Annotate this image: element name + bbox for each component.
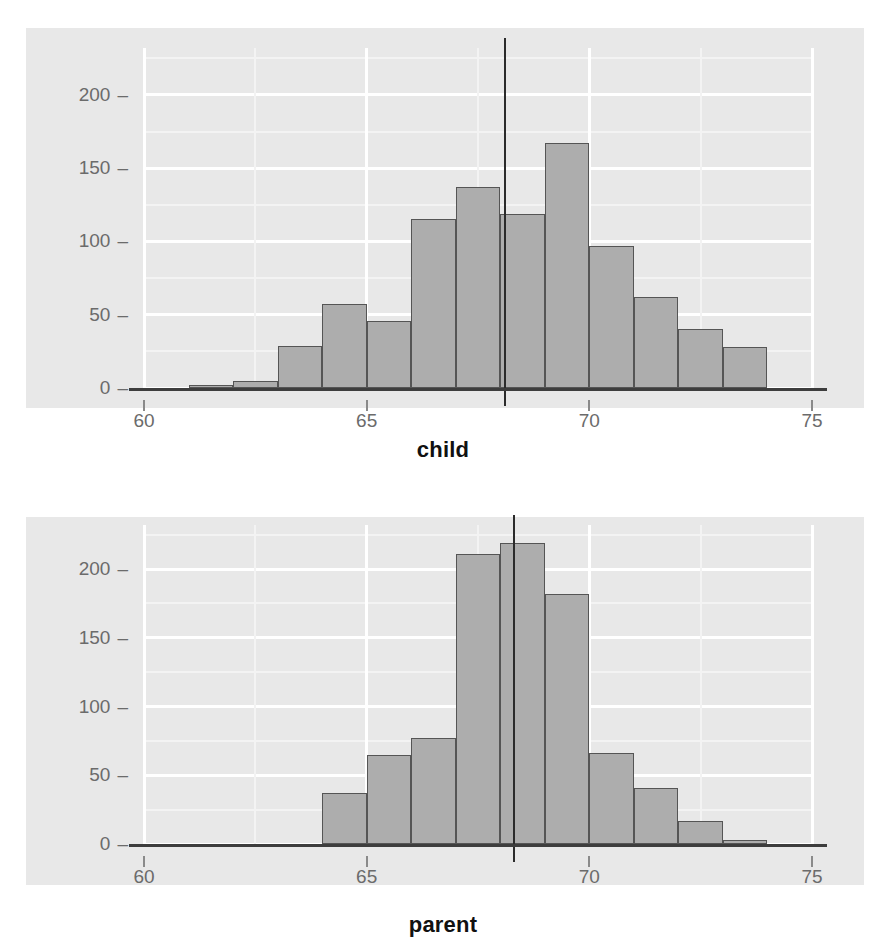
histogram-bar: [367, 755, 412, 844]
mean-reference-line: [513, 515, 515, 862]
gridline-minor-vertical: [700, 525, 702, 844]
histogram-bar: [678, 821, 723, 844]
histogram-bar: [589, 753, 634, 844]
y-axis-tick-mark: –: [117, 833, 128, 855]
histogram-bar: [545, 143, 590, 388]
y-axis-tick-mark: –: [117, 627, 128, 649]
y-axis-tick-label: 50–: [0, 764, 128, 786]
x-axis-line: [129, 844, 827, 847]
y-axis-tick-label: 0–: [0, 377, 128, 399]
histogram-bar: [500, 214, 545, 388]
y-axis-tick-label: 150–: [0, 627, 128, 649]
y-axis-tick-value: 200: [79, 84, 111, 105]
y-axis-tick-label: 100–: [0, 696, 128, 718]
gridline-minor-horizontal: [144, 57, 812, 59]
mean-reference-line: [504, 38, 506, 406]
histogram-bar: [589, 246, 634, 388]
gridline-major-horizontal: [144, 167, 812, 170]
y-axis-tick-mark: –: [117, 764, 128, 786]
y-axis-tick-label: 200–: [0, 558, 128, 580]
x-axis-line: [129, 388, 827, 391]
y-axis-tick-value: 100: [79, 230, 111, 251]
histogram-bar: [322, 304, 367, 388]
y-axis-tick-mark: –: [117, 377, 128, 399]
figure-canvas: 0–50–100–150–200– 60657075 child 0–50–10…: [0, 0, 886, 946]
y-axis-tick-value: 150: [79, 157, 111, 178]
histogram-bar: [456, 187, 501, 388]
histogram-bar: [411, 738, 456, 844]
plot-area-child: [144, 48, 812, 388]
histogram-bar: [678, 329, 723, 388]
x-axis-tick-label: 65: [356, 866, 377, 888]
x-axis-tick-label: 75: [801, 410, 822, 432]
y-axis-tick-label: 100–: [0, 230, 128, 252]
x-axis-tick-label: 60: [133, 866, 154, 888]
y-axis-tick-value: 0: [100, 377, 111, 398]
y-axis-tick-label: 0–: [0, 833, 128, 855]
y-axis-tick-label: 50–: [0, 304, 128, 326]
x-axis-tick-label: 65: [356, 410, 377, 432]
x-axis-title-child: child: [0, 437, 886, 463]
y-axis-tick-mark: –: [117, 304, 128, 326]
y-axis-tick-label: 150–: [0, 157, 128, 179]
y-axis-tick-mark: –: [117, 157, 128, 179]
histogram-bar: [322, 793, 367, 844]
gridline-minor-horizontal: [144, 131, 812, 133]
x-axis-title-parent: parent: [0, 912, 886, 938]
gridline-minor-vertical: [254, 48, 256, 388]
x-axis-tick-label: 60: [133, 410, 154, 432]
y-axis-tick-label: 200–: [0, 84, 128, 106]
histogram-bar: [500, 543, 545, 844]
y-axis-tick-mark: –: [117, 230, 128, 252]
y-axis-tick-value: 50: [89, 764, 110, 785]
y-axis-tick-value: 200: [79, 558, 111, 579]
y-axis-tick-value: 150: [79, 627, 111, 648]
histogram-bar: [634, 297, 679, 388]
histogram-bar: [723, 347, 768, 388]
histogram-bar: [456, 554, 501, 844]
y-axis-tick-mark: –: [117, 558, 128, 580]
gridline-minor-vertical: [254, 525, 256, 844]
x-axis-tick-label: 75: [801, 866, 822, 888]
gridline-minor-horizontal: [144, 534, 812, 536]
y-axis-tick-value: 0: [100, 833, 111, 854]
histogram-bar: [367, 321, 412, 388]
x-axis-tick-label: 70: [579, 410, 600, 432]
histogram-bar: [233, 381, 278, 388]
histogram-bar: [634, 788, 679, 844]
plot-area-parent: [144, 525, 812, 844]
histogram-bar: [278, 346, 323, 389]
histogram-bar: [545, 594, 590, 844]
x-axis-tick-label: 70: [579, 866, 600, 888]
y-axis-tick-value: 50: [89, 304, 110, 325]
histogram-bar: [411, 219, 456, 388]
y-axis-tick-mark: –: [117, 696, 128, 718]
gridline-major-horizontal: [144, 93, 812, 96]
y-axis-tick-mark: –: [117, 84, 128, 106]
y-axis-tick-value: 100: [79, 696, 111, 717]
